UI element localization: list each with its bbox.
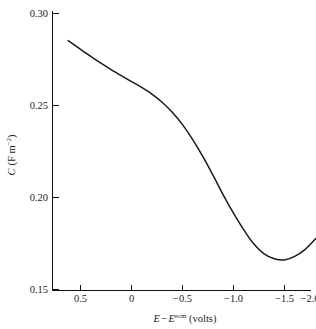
axes-spines: [53, 11, 312, 291]
x-axis-tick-labels: 0.5 0 −0.5 −1.0 −1.5 −2.0: [74, 293, 316, 304]
x-ticklabel-0: 0: [129, 293, 134, 304]
y-axis-title-close: ): [6, 134, 18, 138]
y-ticklabel-025: 0.25: [30, 100, 48, 111]
axis-spine-path: [53, 11, 312, 291]
y-axis-title-var: C: [6, 168, 17, 176]
x-axis-ticks: [81, 285, 285, 291]
x-axis-title-superscript: ecm: [175, 312, 187, 320]
x-axis-title-minus: −: [161, 313, 167, 324]
x-ticklabel-neg2p0: −2.0: [300, 293, 316, 304]
x-ticklabel-0p5: 0.5: [74, 293, 87, 304]
y-axis-title-units: (F m: [6, 145, 18, 165]
capacitance-curve: [68, 41, 316, 260]
capacitance-potential-line-chart: 0.30 0.25 0.20 0.15 0.5 0 −0.5 −1.0 −1.5…: [0, 0, 316, 329]
x-ticklabel-neg1p0: −1.0: [224, 293, 243, 304]
y-axis-ticks: [53, 14, 59, 290]
y-axis-tick-labels: 0.30 0.25 0.20 0.15: [30, 8, 48, 295]
y-ticklabel-015: 0.15: [30, 284, 48, 295]
y-axis-title: C(F m−2): [5, 134, 18, 176]
y-ticklabel-020: 0.20: [30, 192, 48, 203]
y-ticklabel-030: 0.30: [30, 8, 48, 19]
x-ticklabel-neg1p5: −1.5: [275, 293, 294, 304]
chart-figure: 0.30 0.25 0.20 0.15 0.5 0 −0.5 −1.0 −1.5…: [0, 0, 316, 329]
x-axis-title: E−Eecm(volts): [153, 312, 217, 325]
x-axis-title-var1: E: [153, 313, 161, 324]
x-ticklabel-neg0p5: −0.5: [173, 293, 192, 304]
x-axis-title-units: (volts): [189, 313, 217, 325]
